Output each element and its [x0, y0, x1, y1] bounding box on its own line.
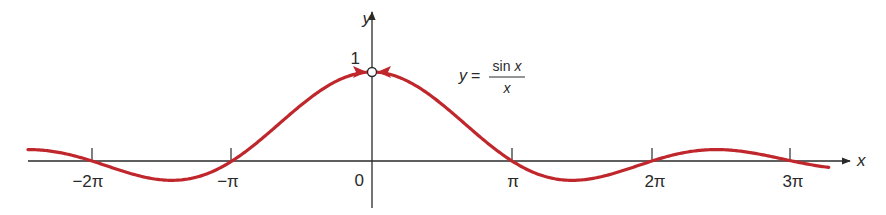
equation-annotation: y= sin x x	[458, 58, 525, 96]
tick-label-neg-2pi: −2π	[72, 172, 103, 191]
tick-label-neg-pi: −π	[217, 172, 239, 191]
sinc-plot: y x 1 0 −2π −π π 2π 3π y= sin x x	[0, 0, 886, 215]
right-approach-arrow-icon	[377, 66, 391, 78]
tick-label-3pi: 3π	[782, 172, 803, 191]
x-axis-label: x	[856, 151, 866, 170]
sinc-curve	[28, 72, 829, 180]
tick-label-2pi: 2π	[644, 172, 665, 191]
equation-lhs: y=	[458, 67, 480, 84]
y-axis-label: y	[362, 9, 373, 28]
hole-marker	[368, 68, 377, 77]
tick-label-pi: π	[507, 172, 519, 191]
origin-label: 0	[355, 171, 364, 190]
y-tick-1: 1	[351, 49, 360, 68]
equation-numerator: sin x	[493, 58, 523, 74]
equation-denominator: x	[503, 80, 512, 96]
x-ticks	[92, 148, 790, 161]
